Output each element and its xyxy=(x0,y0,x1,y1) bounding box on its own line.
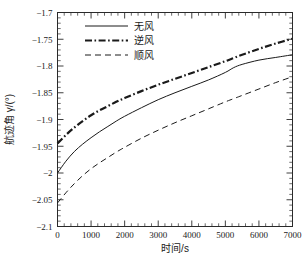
legend-label-顺风: 顺风 xyxy=(134,50,154,61)
chart-figure: 01000200030004000500060007000−2.1−2.05−2… xyxy=(0,0,307,269)
y-tick-label: −2.1 xyxy=(36,222,52,232)
x-tick-label: 1000 xyxy=(82,230,101,240)
series-line-逆风 xyxy=(58,39,293,144)
y-axis-title: 航迹角 γ/(°) xyxy=(3,94,15,145)
x-tick-label: 3000 xyxy=(149,230,168,240)
y-tick-label: −1.95 xyxy=(32,142,53,152)
x-tick-label: 4000 xyxy=(183,230,202,240)
x-tick-label: 5000 xyxy=(216,230,235,240)
x-tick-label: 2000 xyxy=(116,230,135,240)
x-axis-title: 时间/s xyxy=(161,242,189,254)
y-tick-label: −1.75 xyxy=(32,35,53,45)
x-tick-label: 0 xyxy=(55,230,60,240)
series-layer xyxy=(58,39,293,203)
legend-label-逆风: 逆风 xyxy=(134,34,154,46)
y-tick-label: −1.8 xyxy=(36,61,53,71)
y-tick-label: −1.85 xyxy=(32,88,53,98)
legend-label-无风: 无风 xyxy=(134,21,154,32)
y-tick-label: −1.9 xyxy=(36,115,53,125)
line-chart: 01000200030004000500060007000−2.1−2.05−2… xyxy=(0,0,307,269)
series-line-顺风 xyxy=(58,77,293,203)
y-tick-label: −2 xyxy=(43,168,53,178)
y-tick-label: −2.05 xyxy=(32,195,53,205)
x-tick-label: 7000 xyxy=(284,230,303,240)
y-tick-label: −1.7 xyxy=(36,8,53,18)
plot-frame xyxy=(58,13,293,227)
legend-layer: 无风逆风顺风 xyxy=(85,21,154,61)
x-tick-label: 6000 xyxy=(250,230,269,240)
axes-layer xyxy=(58,13,293,227)
